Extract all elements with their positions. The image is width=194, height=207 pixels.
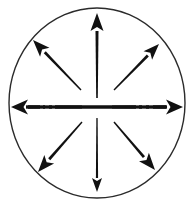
radial-vector-field-figure — [0, 0, 194, 207]
figure-container: A circle containing eight arrows radiati… — [0, 0, 194, 207]
arrow-west-shaft — [28, 105, 82, 108]
arrow-east-shaft — [112, 105, 166, 108]
